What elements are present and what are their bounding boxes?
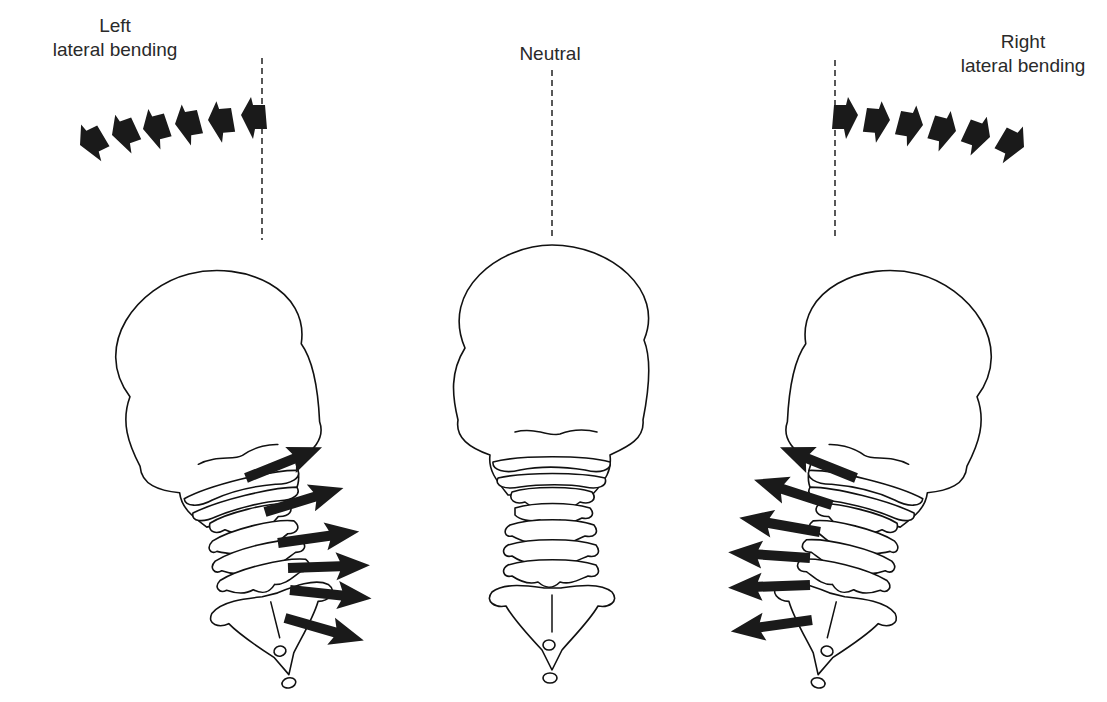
neutral-skull-spine-illustration bbox=[454, 245, 649, 683]
right-motion-chevrons-icon bbox=[832, 97, 1032, 169]
right-bending-skull-spine-illustration bbox=[721, 251, 1013, 702]
diagram-canvas bbox=[0, 0, 1107, 702]
left-motion-chevrons-icon bbox=[72, 97, 267, 167]
